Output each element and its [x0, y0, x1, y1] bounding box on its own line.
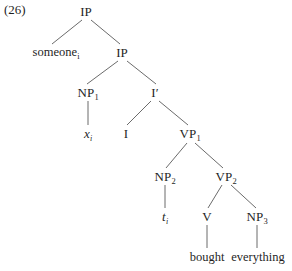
tree-node-np3: NP3 [247, 210, 268, 223]
tree-node-label: V [202, 209, 211, 224]
tree-node-label: NP [247, 209, 264, 224]
tree-node-np1: NP1 [78, 86, 99, 99]
tree-node-subscript: 2 [171, 176, 175, 186]
tree-edge-vp2-to-np3 [231, 185, 256, 208]
tree-node-trace: ti [162, 210, 168, 223]
tree-branch-lines [0, 0, 292, 271]
tree-node-label: VP [216, 169, 233, 184]
tree-node-v-head: V [202, 210, 211, 223]
tree-edge-ip-lower-to-ibar [127, 61, 156, 84]
tree-node-vp1: VP1 [180, 127, 201, 140]
tree-node-subscript: i [90, 134, 92, 143]
syntax-tree-figure: (26) IPsomeoneiIPNP1I′xiIVP1NP2VP2tiVNP3… [0, 0, 292, 271]
tree-edge-vp2-to-v-head [208, 185, 222, 208]
tree-node-label: everything [231, 250, 284, 264]
tree-node-x-var: xi [84, 127, 92, 140]
tree-edge-ibar-to-i-head [127, 101, 151, 125]
tree-node-label: NP [155, 169, 172, 184]
tree-edge-ip-root-to-someone [52, 20, 82, 44]
tree-node-subscript: 3 [263, 216, 267, 226]
tree-node-label: IP [116, 45, 128, 60]
tree-node-ip-lower: IP [116, 46, 128, 59]
tree-node-label: I [124, 126, 128, 141]
tree-node-subscript: 2 [232, 176, 236, 186]
tree-node-ibar: I′ [151, 86, 159, 99]
tree-node-label: I′ [151, 85, 159, 100]
tree-node-bought: bought [190, 251, 225, 264]
tree-node-subscript: 1 [196, 133, 200, 143]
tree-node-ip-root: IP [80, 5, 92, 18]
tree-node-label: IP [80, 4, 92, 19]
tree-edge-ip-lower-to-np1 [87, 61, 118, 84]
tree-node-subscript: i [166, 217, 168, 226]
tree-node-everything: everything [231, 251, 284, 264]
tree-node-label: bought [190, 250, 225, 264]
tree-node-label: someone [33, 45, 77, 59]
tree-node-label: VP [180, 126, 197, 141]
tree-node-subscript: i [77, 51, 79, 61]
tree-node-someone: someonei [33, 46, 80, 59]
tree-edge-vp1-to-np2 [166, 143, 187, 168]
tree-edge-vp1-to-vp2 [195, 143, 223, 168]
tree-edge-ip-root-to-ip-lower [91, 20, 120, 44]
tree-node-label: NP [78, 85, 95, 100]
tree-edge-ibar-to-vp1 [159, 101, 188, 125]
tree-node-i-head: I [124, 127, 128, 140]
tree-node-label: x [84, 126, 90, 141]
tree-node-subscript: 1 [94, 92, 98, 102]
tree-node-np2: NP2 [155, 170, 176, 183]
tree-node-vp2: VP2 [216, 170, 237, 183]
